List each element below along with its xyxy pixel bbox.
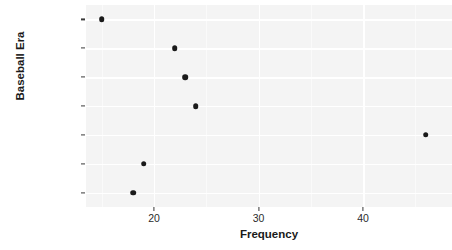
data-point [193, 103, 199, 109]
data-point [141, 161, 147, 167]
y-axis-title: Baseball Era [14, 6, 26, 126]
y-axis-tick-mark [81, 134, 85, 135]
x-axis-tick-mark [153, 207, 154, 211]
x-axis-tick-mark [363, 207, 364, 211]
data-point [423, 132, 429, 138]
chart-title [86, 0, 452, 1]
x-axis-tick-label: 20 [148, 212, 160, 224]
x-axis-tick-mark [258, 207, 259, 211]
chart-container: Long BallFree AgencyExpansionIntegration… [0, 0, 452, 250]
gridline-horizontal [86, 19, 452, 20]
gridline-horizontal [86, 77, 452, 78]
y-axis-tick-mark [81, 163, 85, 164]
y-axis-tick-mark [81, 48, 85, 49]
data-point [99, 17, 105, 23]
data-point [130, 190, 136, 196]
gridline-horizontal [86, 106, 452, 107]
x-axis-title: Frequency [86, 228, 452, 240]
y-axis-tick-mark [81, 77, 85, 78]
plot-panel [86, 5, 452, 207]
y-axis-tick-mark [81, 19, 85, 20]
data-point [172, 45, 178, 51]
y-axis-tick-mark [81, 105, 85, 106]
x-axis-tick-label: 30 [253, 212, 265, 224]
data-point [183, 74, 189, 80]
gridline-horizontal [86, 135, 452, 136]
gridline-horizontal [86, 193, 452, 194]
gridline-horizontal [86, 48, 452, 49]
x-axis-tick-label: 40 [357, 212, 369, 224]
y-axis-tick-mark [81, 192, 85, 193]
